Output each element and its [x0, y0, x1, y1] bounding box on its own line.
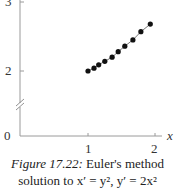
data-point [102, 59, 107, 64]
data-point [110, 55, 115, 60]
y-tick-label-0: 0 [4, 129, 11, 142]
x-tick-label-1: 1 [85, 142, 92, 155]
data-point [85, 68, 90, 73]
x-axis-label: x [167, 129, 173, 142]
data-point [96, 62, 101, 67]
caption-line1-text: Euler's method [83, 156, 164, 171]
chart-plot-area [0, 0, 175, 150]
data-point [122, 44, 127, 49]
data-point [91, 66, 96, 71]
figure-number: Figure 17.22: [11, 156, 83, 171]
y-tick-label-2: 2 [5, 64, 12, 77]
figure-caption-line2: solution to x′ = y², y′ = 2x² [0, 173, 175, 189]
y-tick-label-3: 3 [5, 0, 12, 8]
euler-series-points [85, 22, 152, 74]
figure-caption: Figure 17.22: Euler's method [0, 156, 175, 172]
x-tick-label-2: 2 [151, 142, 158, 155]
data-point [116, 49, 121, 54]
data-point [148, 22, 153, 27]
data-point [130, 37, 135, 42]
data-point [138, 29, 143, 34]
